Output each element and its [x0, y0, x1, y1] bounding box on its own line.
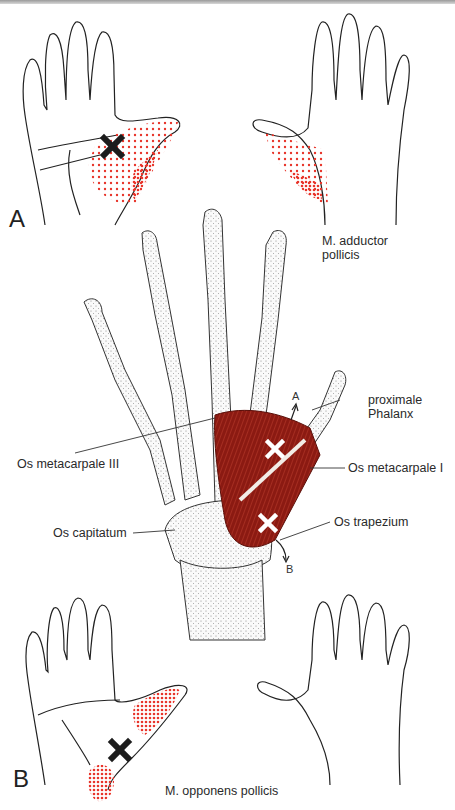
proximal-phalanx-label-line1: proximale	[368, 393, 422, 407]
trigger-point-x-icon	[112, 742, 128, 758]
metacarpal-3-label: Os metacarpale III	[17, 457, 119, 471]
capitate-label: Os capitatum	[53, 526, 127, 540]
adductor-pollicis-label-line2: pollicis	[322, 248, 360, 262]
panel-a-dorsal-hand	[253, 14, 409, 225]
proximal-phalanx-label-line2: Phalanx	[368, 407, 413, 421]
adductor-pollicis-label-line1: M. adductor	[322, 234, 388, 248]
metacarpal-1-label: Os metacarpale I	[348, 461, 443, 475]
arrow-label-b: B	[286, 563, 293, 575]
panel-b-dorsal-hand	[258, 595, 410, 785]
movement-arrow-up-icon	[291, 404, 298, 420]
opponens-pollicis-label: M. opponens pollicis	[165, 784, 278, 798]
movement-arrow-down-icon	[276, 540, 289, 562]
panel-b-letter: B	[13, 765, 29, 793]
panel-a-letter: A	[9, 205, 25, 233]
arrow-label-a: A	[292, 390, 299, 402]
panel-b-pain-area-wrist	[88, 765, 114, 802]
panel-b-pain-area-thumb	[133, 689, 180, 735]
trapezium-label: Os trapezium	[334, 515, 408, 529]
